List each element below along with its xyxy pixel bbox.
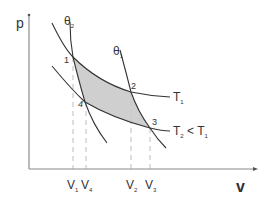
- point-label-1: 1: [64, 55, 69, 65]
- isotherms: [52, 23, 170, 131]
- adiabat-label-theta2: θ2: [64, 14, 75, 29]
- axes: [29, 15, 256, 169]
- isotherm-label-t2: T2 < T1: [173, 124, 208, 139]
- point-label-2: 2: [131, 81, 136, 91]
- adiabat-label-theta1: θ1: [113, 44, 124, 59]
- tick-label-v1: V1: [67, 178, 79, 193]
- y-axis-label: p: [16, 15, 24, 31]
- x-axis-arrow: [253, 167, 258, 171]
- point-label-4: 4: [78, 99, 83, 109]
- pv-diagram: 1 2 3 4 θ2 θ1 T1 T2 < T1 p v V1 V4 V2 V3: [0, 0, 272, 199]
- x-axis-label: v: [236, 178, 245, 195]
- point-label-3: 3: [152, 117, 157, 127]
- tick-label-v2: V2: [126, 178, 138, 193]
- tick-label-v4: V4: [81, 178, 93, 193]
- y-axis-arrow: [28, 14, 31, 17]
- tick-label-v3: V3: [145, 178, 157, 193]
- isotherm-label-t1: T1: [173, 90, 184, 105]
